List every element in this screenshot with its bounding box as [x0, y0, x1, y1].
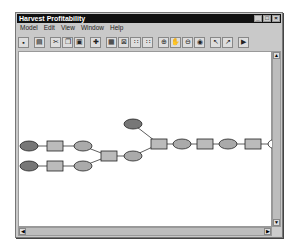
output-node[interactable]: [219, 139, 237, 149]
menu-edit[interactable]: Edit: [44, 23, 55, 33]
copy-icon: ❐: [65, 38, 71, 46]
title-bar[interactable]: Harvest Profitability _ □ ×: [17, 14, 281, 23]
horizontal-scrollbar[interactable]: ◀ ▶: [18, 227, 272, 236]
menu-help[interactable]: Help: [110, 23, 123, 33]
input-node[interactable]: [20, 141, 38, 151]
overview-icon: ◉: [197, 38, 203, 46]
input-node[interactable]: [20, 161, 38, 171]
cut-button[interactable]: ✂: [50, 37, 61, 48]
model-diagram: [19, 52, 273, 228]
add-button[interactable]: ✚: [90, 37, 101, 48]
zoom-in-button[interactable]: ⊕: [158, 37, 169, 48]
process-node[interactable]: [47, 161, 63, 171]
pan-icon: ✋: [171, 38, 180, 46]
paste-button[interactable]: ▣: [74, 37, 85, 48]
save-icon: ▪: [22, 39, 24, 46]
pointer-icon: ↖: [213, 38, 219, 46]
menu-model[interactable]: Model: [20, 23, 38, 33]
zoom-in-icon: ⊕: [161, 38, 167, 46]
select-all-button[interactable]: ⊠: [118, 37, 129, 48]
align-icon: ∷: [134, 38, 138, 46]
copy-button[interactable]: ❐: [62, 37, 73, 48]
distribute-button[interactable]: ∷: [142, 37, 153, 48]
process-node[interactable]: [47, 141, 63, 151]
print-button[interactable]: ▤: [34, 37, 45, 48]
save-button[interactable]: ▪: [18, 37, 29, 48]
window-title: Harvest Profitability: [19, 14, 85, 23]
add-icon: ✚: [93, 38, 99, 46]
run-icon: ▶: [241, 38, 246, 46]
process-node[interactable]: [101, 151, 117, 161]
output-node[interactable]: [124, 151, 142, 161]
model-window: Harvest Profitability _ □ × Model Edit V…: [15, 12, 283, 238]
connect-icon: ↗: [225, 38, 231, 46]
distribute-icon: ∷: [146, 38, 150, 46]
cut-icon: ✂: [53, 38, 59, 46]
grid-button[interactable]: ▦: [106, 37, 117, 48]
window-controls: _ □ ×: [254, 15, 280, 22]
pan-button[interactable]: ✋: [170, 37, 181, 48]
minimize-button[interactable]: _: [254, 15, 262, 22]
print-icon: ▤: [36, 38, 43, 46]
maximize-button[interactable]: □: [263, 15, 271, 22]
process-node[interactable]: [197, 139, 213, 149]
scroll-left-button[interactable]: ◀: [19, 228, 26, 235]
paste-icon: ▣: [76, 38, 83, 46]
select-all-icon: ⊠: [121, 38, 127, 46]
model-canvas[interactable]: [18, 51, 272, 227]
input-node[interactable]: [124, 119, 142, 129]
zoom-out-button[interactable]: ⊖: [182, 37, 193, 48]
menu-bar: Model Edit View Window Help: [17, 23, 281, 33]
menu-window[interactable]: Window: [81, 23, 104, 33]
vertical-scrollbar[interactable]: ▲ ▼: [272, 51, 281, 227]
toolbar: ▪▤✂❐▣✚▦⊠∷∷⊕✋⊖◉↖↗▶: [18, 35, 280, 49]
resize-grip[interactable]: [272, 227, 281, 236]
menu-view[interactable]: View: [61, 23, 75, 33]
process-node[interactable]: [151, 139, 167, 149]
scroll-up-button[interactable]: ▲: [273, 52, 280, 59]
zoom-out-icon: ⊖: [185, 38, 191, 46]
pointer-button[interactable]: ↖: [210, 37, 221, 48]
close-button[interactable]: ×: [272, 15, 280, 22]
process-node[interactable]: [245, 139, 261, 149]
scroll-down-button[interactable]: ▼: [273, 219, 280, 226]
output-node[interactable]: [173, 139, 191, 149]
output-node[interactable]: [74, 141, 92, 151]
align-button[interactable]: ∷: [130, 37, 141, 48]
grid-icon: ▦: [108, 38, 115, 46]
run-button[interactable]: ▶: [238, 37, 249, 48]
scroll-right-button[interactable]: ▶: [264, 228, 271, 235]
overview-button[interactable]: ◉: [194, 37, 205, 48]
output-node[interactable]: [74, 161, 92, 171]
connect-button[interactable]: ↗: [222, 37, 233, 48]
